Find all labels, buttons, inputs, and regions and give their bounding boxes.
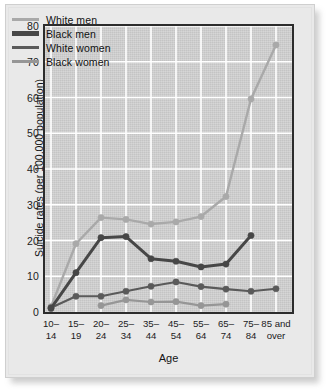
legend-item-black-men: Black men — [12, 27, 144, 40]
data-point — [248, 232, 254, 238]
legend-swatch-icon — [12, 31, 39, 35]
x-axis-title: Age — [43, 352, 294, 364]
data-point — [98, 302, 104, 308]
x-axis-ticks: 10–1415–1920–2425–3435–4445–5455–6465–74… — [43, 318, 294, 352]
data-point — [73, 293, 79, 299]
data-point — [148, 256, 154, 262]
data-point — [198, 302, 204, 308]
chart-figure: Suicide rates (per 100,000 population) 0… — [0, 0, 327, 391]
data-point — [223, 286, 229, 292]
series-line — [51, 45, 276, 307]
series-line — [51, 282, 276, 308]
series-line — [101, 300, 226, 306]
series-white-women — [48, 279, 279, 311]
y-tick-label: 10 — [3, 270, 39, 282]
y-tick-label: 60 — [3, 92, 39, 104]
chart-legend: White menBlack menWhite womenBlack women — [12, 13, 144, 69]
data-point — [173, 279, 179, 285]
data-point — [123, 216, 129, 222]
data-point — [98, 293, 104, 299]
data-point — [198, 264, 204, 270]
data-point — [123, 288, 129, 294]
data-point — [148, 221, 154, 227]
data-point — [223, 193, 229, 199]
series-white-men — [48, 42, 279, 310]
data-point — [98, 215, 104, 221]
data-point — [123, 297, 129, 303]
data-point — [223, 301, 229, 307]
data-point — [173, 258, 179, 264]
y-tick-label: 0 — [3, 306, 39, 318]
legend-label: Black women — [46, 56, 110, 68]
y-tick-label: 20 — [3, 235, 39, 247]
legend-item-black-women: Black women — [12, 55, 144, 68]
x-tick-label: 85 andover — [253, 318, 299, 341]
data-point — [173, 219, 179, 225]
data-point — [148, 283, 154, 289]
y-tick-label: 40 — [3, 163, 39, 175]
data-point — [173, 299, 179, 305]
legend-label: White women — [46, 42, 111, 54]
data-point — [273, 42, 279, 48]
data-point — [73, 241, 79, 247]
legend-item-white-women: White women — [12, 41, 144, 54]
data-point — [123, 233, 129, 239]
legend-swatch-icon — [12, 60, 39, 63]
data-point — [73, 270, 79, 276]
legend-label: White men — [46, 14, 97, 26]
legend-item-white-men: White men — [12, 13, 144, 26]
data-point — [48, 305, 54, 311]
data-point — [248, 288, 254, 294]
data-point — [198, 284, 204, 290]
y-tick-label: 50 — [3, 127, 39, 139]
y-tick-label: 30 — [3, 199, 39, 211]
data-point — [98, 235, 104, 241]
data-point — [148, 299, 154, 305]
data-point — [198, 213, 204, 219]
data-point — [223, 261, 229, 267]
data-point — [248, 96, 254, 102]
legend-swatch-icon — [12, 18, 39, 22]
legend-swatch-icon — [12, 46, 39, 49]
series-black-women — [98, 297, 229, 309]
data-point — [273, 286, 279, 292]
legend-label: Black men — [46, 28, 96, 40]
